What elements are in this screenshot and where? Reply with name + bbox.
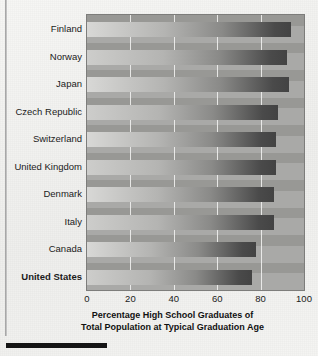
category-label: United States [0,271,82,282]
bottom-divider-rule [6,343,107,348]
x-tick-label: 100 [296,293,312,304]
x-axis-title-line1: Percentage High School Graduates of [40,310,305,322]
x-tick-label: 40 [169,293,180,304]
bar [87,132,276,147]
bar [87,270,252,285]
plot-area [86,14,305,291]
category-label: Denmark [0,188,82,199]
x-tick-label: 20 [125,293,136,304]
x-tick-label: 60 [212,293,223,304]
bar [87,160,276,175]
category-label: Canada [0,243,82,254]
category-label: Japan [0,78,82,89]
x-tick-label: 0 [84,293,89,304]
category-label: Finland [0,23,82,34]
bar [87,50,287,65]
x-tick-label: 80 [255,293,266,304]
x-axis-tick-labels: 020406080100 [0,293,318,307]
bar [87,242,256,257]
x-axis-title: Percentage High School Graduates of Tota… [40,310,305,333]
bar [87,77,289,92]
category-label: Switzerland [0,133,82,144]
bar [87,22,291,37]
gridline [304,15,305,290]
bar [87,187,274,202]
category-label: Norway [0,51,82,62]
category-label: Czech Republic [0,106,82,117]
chart-figure: FinlandNorwayJapanCzech RepublicSwitzerl… [0,0,318,356]
category-label: Italy [0,216,82,227]
category-axis-labels: FinlandNorwayJapanCzech RepublicSwitzerl… [0,14,82,291]
x-axis-title-line2: Total Population at Typical Graduation A… [40,322,305,334]
category-label: United Kingdom [0,161,82,172]
bar [87,215,274,230]
bar [87,105,278,120]
